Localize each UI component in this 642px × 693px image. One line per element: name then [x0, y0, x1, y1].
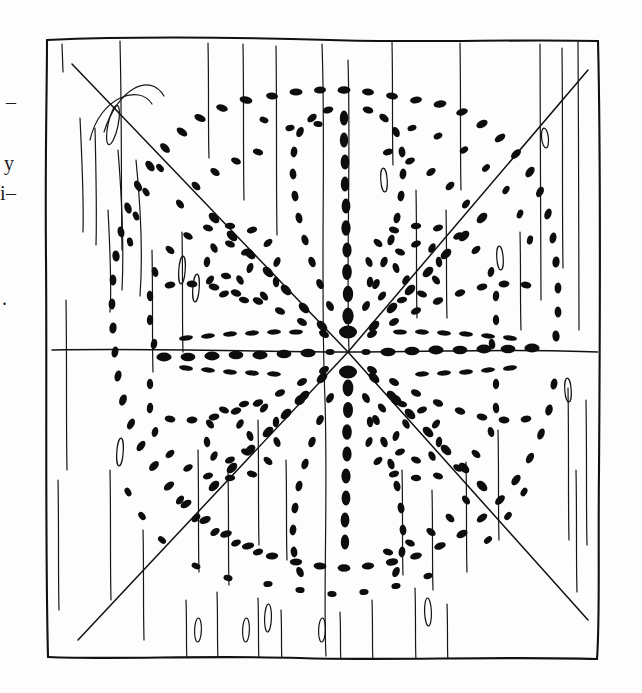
carving-marks: [24, 0, 572, 642]
mark-group-spiral-se: [364, 379, 500, 557]
mark-group-spiral-nw: [146, 147, 282, 349]
mark-group-outer-ring: [108, 86, 561, 572]
axis-diagonal-ne: [348, 70, 588, 352]
axis-horizontal: [52, 349, 598, 352]
panel-drawing-svg: [0, 0, 642, 693]
figure-illustration: [0, 0, 642, 693]
axis-diagonal-se: [348, 352, 588, 620]
mark-group-spiral-ne: [364, 147, 500, 349]
mark-group-petal-outlines: [164, 105, 532, 578]
scanned-page: – y i– .: [0, 0, 642, 693]
mark-group-spiral-sw: [146, 379, 282, 557]
